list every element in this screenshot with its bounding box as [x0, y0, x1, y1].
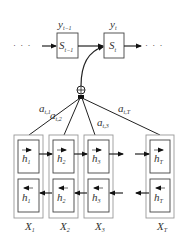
forward-hidden-t [150, 140, 170, 173]
ellipsis-right: · · · [145, 40, 164, 50]
context-arrow [81, 47, 103, 86]
encoder-column-1: h1 h1 X1 [14, 135, 43, 233]
input-label-t: XT [156, 220, 168, 233]
input-label-3: X3 [94, 220, 105, 233]
input-label-2: X2 [59, 220, 70, 233]
attention-weight-1: at,1 [39, 102, 51, 115]
y-prev-label: yt−1 [57, 18, 72, 31]
backward-hidden-t [150, 179, 170, 212]
attention-weight-t: at,T [118, 102, 131, 115]
input-label-1: X1 [24, 220, 35, 233]
ellipsis-left: · · · [13, 40, 32, 50]
attention-weight-2: at,2 [50, 109, 62, 122]
encoder-column-t: hT hT XT [146, 135, 174, 233]
encoder-column-2: h2 h2 X2 [49, 135, 78, 233]
y-t-label: yt [109, 18, 117, 31]
attention-weight-3: at,3 [97, 116, 109, 129]
attention-diagram: · · · St−1 yt−1 St yt · · · at,1 at,2 at… [0, 0, 185, 249]
encoder-column-3: h3 h3 X3 [84, 135, 113, 233]
